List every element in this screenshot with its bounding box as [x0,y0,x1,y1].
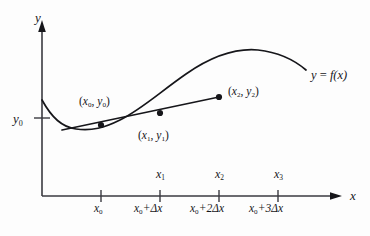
tick-expr-2-sub: 0 [195,208,199,216]
p0-ysub: 0 [102,101,106,109]
x-axis-arrowhead [330,192,342,200]
tick-expr-1-sub: 0 [139,208,143,216]
tick-expr-2-rest: +2Δx [199,202,224,214]
tick-expr-1-rest: +Δx [143,202,163,214]
x-tick-expr-0: x0 [94,203,103,215]
p1-ysub: 1 [161,135,165,143]
tick-expr-3-rest: +3Δx [258,202,283,214]
curve-equation-label: y = f(x) [311,69,347,82]
y0-subscript: 0 [19,119,23,128]
diagram-canvas [0,0,370,236]
point-label-x1: (x1, y1) [138,130,169,142]
curve-label-equals: = [317,68,330,82]
y-axis-label: y [35,11,41,24]
y0-axis-value-label: y0 [13,112,23,125]
curve-label-arg: (x) [333,68,347,82]
x-tick-name-2: x2 [215,168,224,180]
p1-close: ) [165,129,169,141]
point-marker-x2 [216,94,222,100]
x-tick-name-1: x1 [156,168,165,180]
x-tick-expr-1: x0+Δx [134,203,162,215]
point-marker-x0 [98,122,104,128]
function-curve [42,50,306,130]
calculus-diagram: y x y0 y = f(x) (x0, y0) (x1, y1) (x2, y… [0,0,370,236]
x-tick-name-3: x3 [274,168,283,180]
point-marker-x1 [157,110,163,116]
point-label-x2: (x2, y2) [228,86,259,98]
x-tick-expr-2: x0+2Δx [190,203,224,215]
x-axis-label: x [350,189,356,202]
x-tick-expr-3: x0+3Δx [249,203,283,215]
tick-expr-0-sub: 0 [99,208,103,216]
p2-close: ) [255,85,259,97]
point-label-x0: (x0, y0) [79,96,110,108]
tick-name-1-sub: 1 [161,173,165,182]
p1-xsub: 1 [147,135,151,143]
tick-name-2-sub: 2 [220,173,224,182]
p0-xsub: 0 [88,101,92,109]
y0-letter: y [13,111,19,126]
tick-expr-3-sub: 0 [254,208,258,216]
p2-ysub: 2 [251,91,255,99]
tick-name-3-sub: 3 [279,173,283,182]
p0-close: ) [106,95,110,107]
p2-xsub: 2 [237,91,241,99]
